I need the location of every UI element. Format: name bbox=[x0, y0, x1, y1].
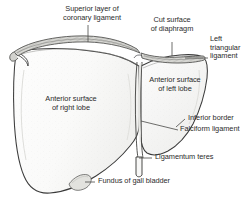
label-inferior-border: Inferior border bbox=[188, 114, 234, 123]
label-falciform-ligament: Falciform ligament bbox=[180, 125, 239, 134]
label-line: of left lobe bbox=[143, 85, 207, 94]
label-superior-layer-coronary-ligament: Superior layer of coronary ligament bbox=[47, 5, 137, 22]
label-line: ligament bbox=[210, 52, 240, 61]
label-left-triangular-ligament: Left triangular ligament bbox=[210, 35, 240, 61]
label-fundus-of-gall-bladder: Fundus of gall bladder bbox=[98, 177, 170, 186]
liver-anatomy-figure: Superior layer of coronary ligament Cut … bbox=[0, 0, 251, 213]
label-cut-surface-of-diaphragm: Cut surface of diaphragm bbox=[138, 16, 206, 33]
label-ligamentum-teres: Ligamentum teres bbox=[155, 153, 213, 162]
ligamentum-teres-shape bbox=[136, 157, 142, 177]
label-line: Fundus of gall bladder bbox=[98, 177, 170, 186]
label-line: coronary ligament bbox=[47, 14, 137, 23]
right-lobe-texture bbox=[14, 49, 139, 193]
left-lobe-group bbox=[141, 55, 207, 155]
label-line: Falciform ligament bbox=[180, 125, 239, 134]
label-anterior-surface-of-right-lobe: Anterior surface of right lobe bbox=[39, 95, 103, 112]
label-line: Ligamentum teres bbox=[155, 153, 213, 162]
ligamentum-teres-band bbox=[136, 157, 142, 177]
right-lobe-group bbox=[14, 49, 139, 193]
left-lobe-texture bbox=[141, 55, 207, 155]
label-line: of diaphragm bbox=[138, 25, 206, 34]
label-anterior-surface-of-left-lobe: Anterior surface of left lobe bbox=[143, 76, 207, 93]
label-line: of right lobe bbox=[39, 104, 103, 113]
label-line: Inferior border bbox=[188, 114, 234, 123]
